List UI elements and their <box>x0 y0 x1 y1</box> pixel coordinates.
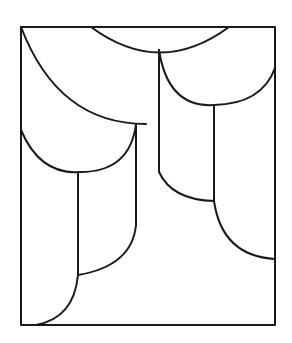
top-arc <box>91 27 229 53</box>
large-left-arc <box>21 27 146 124</box>
diagram-canvas <box>0 0 292 343</box>
outer-frame <box>21 27 275 325</box>
arc-shapes <box>21 27 275 325</box>
arc-composition <box>0 0 292 343</box>
right-lower-arc <box>214 201 275 259</box>
left-middle-arc <box>21 124 136 172</box>
lower-left-arc-1 <box>78 225 136 275</box>
center-lower-arc <box>159 172 214 201</box>
lower-left-arc-2 <box>36 275 78 325</box>
right-upper-arc <box>159 50 275 105</box>
